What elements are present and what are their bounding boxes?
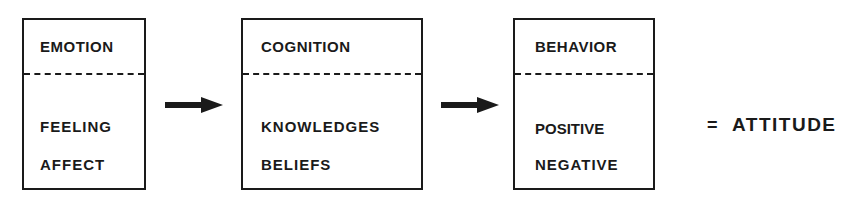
box-item: POSITIVE [535, 120, 604, 137]
box-item: AFFECT [40, 156, 105, 173]
box-item: KNOWLEDGES [261, 118, 380, 135]
dashed-divider [24, 73, 144, 75]
behavior-box: BEHAVIOR POSITIVE NEGATIVE [513, 18, 655, 190]
box-item: BELIEFS [261, 156, 331, 173]
box-title: EMOTION [40, 38, 114, 55]
cognition-box: COGNITION KNOWLEDGES BELIEFS [241, 18, 423, 190]
box-title: BEHAVIOR [535, 38, 617, 55]
box-item: FEELING [40, 118, 112, 135]
right-arrow-icon [165, 96, 225, 114]
dashed-divider [243, 73, 421, 75]
right-arrow-icon [441, 96, 501, 114]
equals-sign: = [707, 115, 718, 136]
box-title: COGNITION [261, 38, 351, 55]
box-item: NEGATIVE [535, 156, 619, 173]
emotion-box: EMOTION FEELING AFFECT [22, 18, 146, 190]
dashed-divider [515, 73, 653, 75]
attitude-label: ATTITUDE [732, 114, 837, 136]
